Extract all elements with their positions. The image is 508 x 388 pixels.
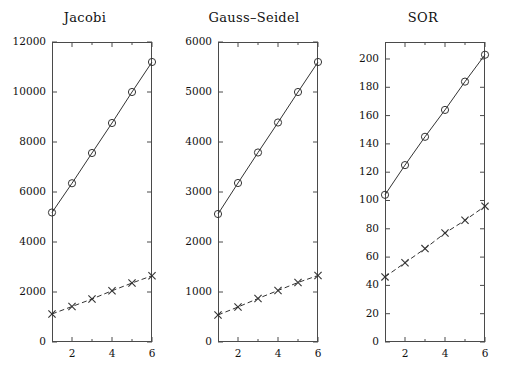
data-point-marker-cross xyxy=(461,217,468,224)
data-point-marker-cross xyxy=(234,303,241,310)
data-point-marker-cross xyxy=(148,272,155,279)
data-point-marker-cross xyxy=(294,279,301,286)
series-line-circle-series xyxy=(385,55,485,195)
series-line-cross-series xyxy=(52,276,152,314)
data-point-marker-cross xyxy=(88,295,95,302)
series-line-circle-series xyxy=(52,62,152,213)
data-point-marker-cross xyxy=(314,272,321,279)
data-point-marker-cross xyxy=(254,295,261,302)
data-point-marker-cross xyxy=(441,229,448,236)
chart-panel-3: SOR020406080100120140160180200246 xyxy=(338,0,508,388)
chart-panel-1: Jacobi020004000600080001000012000246 xyxy=(0,0,170,388)
plot-area xyxy=(169,0,339,388)
data-point-marker-cross xyxy=(108,287,115,294)
data-point-marker-cross xyxy=(421,245,428,252)
data-point-marker-cross xyxy=(401,259,408,266)
series-line-cross-series xyxy=(385,206,485,277)
data-point-marker-cross xyxy=(481,203,488,210)
chart-panel-2: Gauss–Seidel0100020003000400050006000246 xyxy=(169,0,339,388)
data-point-marker-cross xyxy=(274,287,281,294)
series-line-circle-series xyxy=(218,62,318,214)
data-point-marker-cross xyxy=(68,303,75,310)
series-line-cross-series xyxy=(218,276,318,316)
plot-area xyxy=(338,0,508,388)
data-point-marker-cross xyxy=(214,311,221,318)
data-point-marker-cross xyxy=(128,279,135,286)
plot-area xyxy=(0,0,170,388)
data-point-marker-cross xyxy=(48,310,55,317)
figure-canvas: Jacobi020004000600080001000012000246Gaus… xyxy=(0,0,508,388)
data-point-marker-cross xyxy=(381,273,388,280)
